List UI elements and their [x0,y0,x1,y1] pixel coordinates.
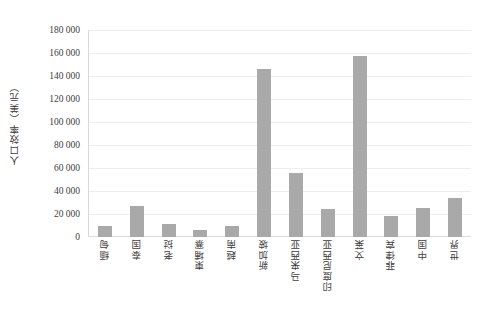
bars [89,30,471,237]
x-tick-label: 中国 [416,239,429,264]
x-tick-label-text: 世界 [448,239,462,260]
x-tick-label-text: 菲律宾 [384,239,398,270]
y-tick-label: 20 000 [54,209,80,219]
x-tick-label-text: 缅甸 [97,239,111,260]
x-tick-label: 越南 [225,239,238,264]
x-tick-label: 世界 [448,239,461,264]
x-tick-label: 柬埔寨 [193,239,206,274]
x-axis-tick-labels: 缅甸泰国老挝柬埔寨越南新加坡马来西亚印度尼西亚文莱菲律宾中国世界 [88,239,470,316]
x-tick-label-text: 越南 [225,239,239,260]
x-tick-label-text: 马来西亚 [288,239,302,281]
bar [416,208,430,237]
x-tick-label: 泰国 [129,239,142,264]
bar [257,69,271,237]
bar [448,198,462,237]
y-tick-label: 40 000 [54,186,80,196]
x-tick-label: 马来西亚 [288,239,301,285]
y-tick-label: 0 [75,232,80,242]
bar [130,206,144,237]
x-tick-label-text: 泰国 [129,239,143,260]
y-axis-title: 人口效率（美元） [0,0,30,246]
plot-area [88,30,471,237]
x-tick-label-text: 印度尼西亚 [320,239,334,291]
y-tick-label: 180 000 [49,25,80,35]
x-tick-label-text: 文莱 [352,239,366,260]
bar [384,216,398,237]
y-tick-label: 160 000 [49,48,80,58]
x-tick-label: 新加坡 [257,239,270,274]
y-tick-label: 60 000 [54,163,80,173]
bar [321,209,335,237]
bar [225,226,239,238]
x-tick-label: 缅甸 [97,239,110,264]
bar [289,173,303,237]
y-axis-tick-labels: 180 000160 000140 000120 000100 00080 00… [30,0,84,246]
x-tick-label-text: 老挝 [161,239,175,260]
bar [193,230,207,237]
x-tick-label: 印度尼西亚 [320,239,333,295]
x-tick-label: 老挝 [161,239,174,264]
y-tick-label: 140 000 [49,71,80,81]
x-tick-label: 文莱 [352,239,365,264]
y-tick-label: 80 000 [54,140,80,150]
x-tick-label: 菲律宾 [384,239,397,274]
x-tick-label-text: 柬埔寨 [193,239,207,270]
y-tick-label: 120 000 [49,94,80,104]
y-axis-title-text: 人口效率（美元） [8,81,22,165]
bar-chart: 人口效率（美元） 180 000160 000140 000120 000100… [0,0,496,316]
bar [353,56,367,237]
bar [98,226,112,238]
x-tick-label-text: 中国 [416,239,430,260]
x-tick-label-text: 新加坡 [257,239,271,270]
y-tick-label: 100 000 [49,117,80,127]
bar [162,224,176,237]
